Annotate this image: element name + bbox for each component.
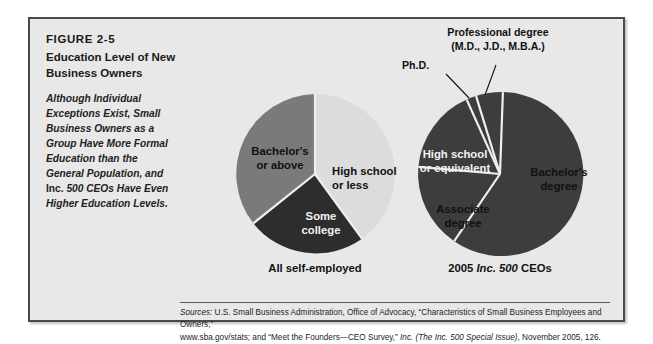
sources-line2-pre: www.sba.gov/stats; and “Meet the Founder… <box>180 333 400 342</box>
sources-divider <box>180 302 610 303</box>
pie-caption-inc-500-ital: Inc. 500 <box>476 262 517 274</box>
pie-caption-inc-500-post: CEOs <box>518 262 552 274</box>
leader-line-professional-degree <box>485 65 496 95</box>
figure-subtitle-part1: Although Individual Exceptions Exist, Sm… <box>46 93 168 179</box>
pie-caption-inc-500-ceos: 2005 Inc. 500 CEOs <box>430 262 570 274</box>
pie-inc-500-ceos <box>418 92 583 256</box>
pie-caption-all-self-employed-text: All self-employed <box>268 262 362 274</box>
figure-caption-column: FIGURE 2-5 Education Level of New Busine… <box>46 33 178 211</box>
callout-label-professional-degree-line2: (M.D., J.D., M.B.A.) <box>451 40 545 52</box>
figure-title: Education Level of New Business Owners <box>46 49 178 82</box>
callout-label-phd-text: Ph.D. <box>402 59 429 71</box>
pie-caption-all-self-employed: All self-employed <box>245 262 385 274</box>
charts-area: High school or less Some college Bachelo… <box>180 19 625 284</box>
pie-caption-inc-500-pre: 2005 <box>448 262 476 274</box>
callout-label-phd: Ph.D. <box>402 59 429 73</box>
figure-subtitle-part2: 500 CEOs Have Even Higher Education Leve… <box>46 183 168 209</box>
sources-note: Sources: U.S. Small Business Administrat… <box>180 307 616 344</box>
sources-line1: U.S. Small Business Administration, Offi… <box>180 308 602 329</box>
sources-line2-post: , November 2005, 126. <box>518 333 601 342</box>
callout-label-professional-degree: Professional degree (M.D., J.D., M.B.A.) <box>417 26 579 54</box>
callout-leader-lines <box>446 65 496 98</box>
sources-line2-inc: Inc. (The Inc. 500 Special Issue) <box>400 333 517 342</box>
figure-panel: FIGURE 2-5 Education Level of New Busine… <box>28 17 625 322</box>
figure-subtitle-inc: Inc. <box>46 183 64 194</box>
figure-subtitle: Although Individual Exceptions Exist, Sm… <box>46 91 178 212</box>
figure-number: FIGURE 2-5 <box>46 33 178 45</box>
callout-label-professional-degree-line1: Professional degree <box>447 26 548 38</box>
sources-label: Sources: <box>180 308 212 317</box>
leader-line-phd <box>446 74 469 98</box>
pie-all-self-employed <box>236 94 395 253</box>
